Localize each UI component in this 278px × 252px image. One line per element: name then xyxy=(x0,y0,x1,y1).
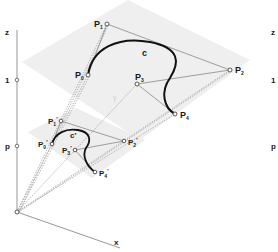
tick-one-marker xyxy=(15,78,19,82)
point-p0-prime xyxy=(50,142,54,146)
label-curve-c-prime: c' xyxy=(70,131,76,140)
x-axis-label: x xyxy=(114,238,119,247)
projection-diagram: z 1 p x y P0 P1 P2 P3 P4 c P0' P1' P2' P… xyxy=(0,0,278,252)
label-p2: P2 xyxy=(235,65,244,76)
origin-marker xyxy=(15,210,19,214)
point-p4-prime xyxy=(93,170,97,174)
label-p2-prime: P2' xyxy=(128,137,138,148)
point-p1 xyxy=(105,22,109,26)
point-p0 xyxy=(86,73,90,77)
right-z-label: z xyxy=(271,28,275,37)
x-axis xyxy=(17,212,120,248)
point-p3 xyxy=(135,82,139,86)
point-p4 xyxy=(173,112,177,116)
label-p0-prime: P0' xyxy=(38,139,48,150)
point-p2-prime xyxy=(122,139,126,143)
point-p3-prime xyxy=(73,148,77,152)
y-axis-ghost-label: y xyxy=(113,94,117,102)
tick-one-label: 1 xyxy=(5,76,10,85)
z-axis-label: z xyxy=(5,28,9,37)
label-p4-prime: P4' xyxy=(99,168,109,179)
tick-p-label: p xyxy=(5,142,10,151)
tick-p-marker xyxy=(15,144,19,148)
label-p4: P4 xyxy=(180,110,189,121)
right-p-label: p xyxy=(271,142,276,151)
label-curve-c: c xyxy=(142,48,147,58)
point-p1-prime xyxy=(59,119,63,123)
right-one-label: 1 xyxy=(271,76,276,85)
point-p2 xyxy=(228,68,232,72)
